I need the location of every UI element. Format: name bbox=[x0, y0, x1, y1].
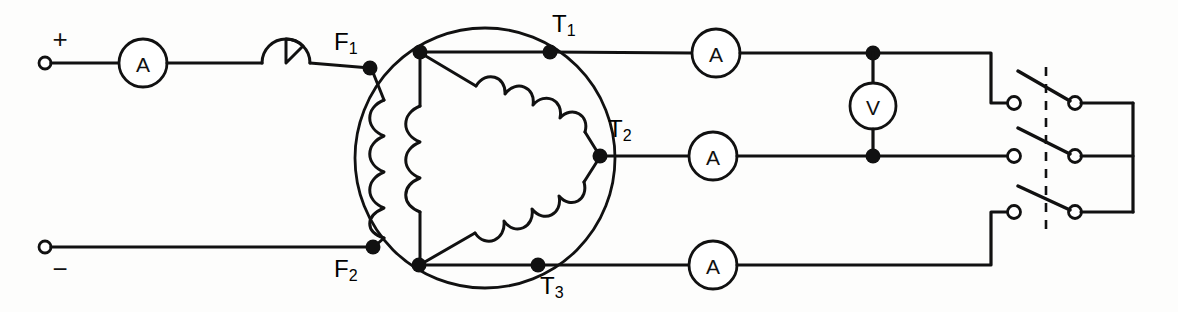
field-ammeter-label: A bbox=[136, 53, 150, 76]
label-f1: F1 bbox=[334, 28, 358, 58]
switch-left-contact-3[interactable] bbox=[1008, 206, 1021, 219]
switch-left-contact-2[interactable] bbox=[1008, 150, 1021, 163]
field-coil bbox=[370, 100, 384, 238]
label-t3: T3 bbox=[540, 272, 564, 302]
wire-rheostat-to-f1 bbox=[310, 63, 370, 68]
wire-ammeter3-to-switch-pole3 bbox=[737, 212, 1008, 265]
wire-delta-topleft-to-coil-b bbox=[424, 55, 476, 86]
label-f2: F2 bbox=[334, 255, 358, 285]
switch-blade-1[interactable] bbox=[1018, 71, 1070, 101]
node-f1 bbox=[363, 61, 378, 76]
schematic-svg: + A − bbox=[0, 0, 1178, 312]
field-rheostat-wedge bbox=[286, 39, 303, 63]
label-t1-main: T bbox=[552, 10, 567, 37]
line-voltmeter-label: V bbox=[866, 96, 880, 119]
switch-blade-2[interactable] bbox=[1018, 128, 1070, 154]
positive-polarity-label: + bbox=[52, 24, 67, 54]
label-t2-main: T bbox=[608, 115, 623, 142]
node-f2 bbox=[366, 240, 381, 255]
label-f2-main: F bbox=[334, 255, 349, 282]
label-f2-sub: 2 bbox=[349, 267, 358, 284]
circuit-diagram-canvas: + A − bbox=[0, 0, 1178, 312]
node-delta-vertex-bottom-left bbox=[412, 258, 427, 273]
label-f1-sub: 1 bbox=[349, 40, 358, 57]
label-t2-sub: 2 bbox=[623, 127, 632, 144]
wire-t2-to-coil-c bbox=[584, 160, 598, 182]
wire-coil-c-to-delta-bottomleft bbox=[423, 233, 475, 263]
label-t1: T1 bbox=[552, 10, 576, 40]
negative-polarity-label: − bbox=[52, 254, 67, 284]
node-delta-vertex-top-left bbox=[413, 45, 428, 60]
switch-blade-3[interactable] bbox=[1018, 186, 1070, 210]
negative-supply-terminal[interactable] bbox=[39, 241, 51, 253]
machine-outline-circle bbox=[355, 28, 615, 288]
label-f1-main: F bbox=[334, 28, 349, 55]
label-t3-main: T bbox=[540, 272, 555, 299]
node-voltmeter-tap-bottom bbox=[866, 149, 881, 164]
label-t2: T2 bbox=[608, 115, 632, 145]
delta-coil-b bbox=[476, 77, 586, 132]
line-ammeter-3-label: A bbox=[706, 255, 720, 278]
label-t1-sub: 1 bbox=[567, 22, 576, 39]
label-t3-sub: 3 bbox=[555, 284, 564, 301]
switch-left-contact-1[interactable] bbox=[1008, 97, 1021, 110]
wire-t1-to-ammeter1 bbox=[550, 52, 692, 53]
delta-coil-a bbox=[406, 106, 420, 212]
positive-supply-terminal[interactable] bbox=[39, 57, 51, 69]
delta-coil-c bbox=[475, 182, 585, 241]
wire-f1-to-field-coil bbox=[372, 70, 384, 100]
line-ammeter-2-label: A bbox=[706, 146, 720, 169]
line-ammeter-1-label: A bbox=[709, 43, 723, 66]
